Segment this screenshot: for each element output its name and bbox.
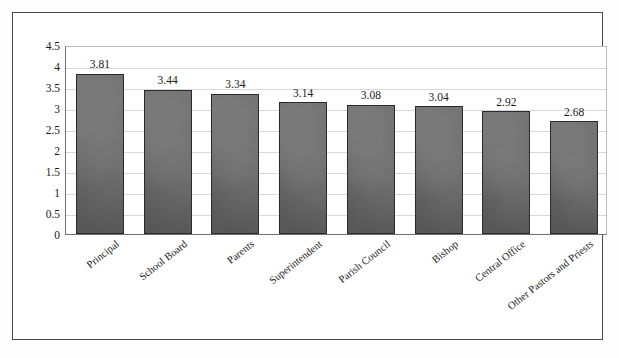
x-axis-category-label: School Board [137, 239, 189, 283]
y-axis-tick-label: 4.5 [46, 41, 60, 53]
bar[interactable]: 3.81 [76, 74, 124, 234]
bar[interactable]: 3.08 [347, 105, 395, 234]
bar[interactable]: 3.14 [279, 102, 327, 234]
y-axis-tick-label: 3 [54, 104, 60, 116]
y-axis-tick-label: 1.5 [46, 167, 60, 179]
bar[interactable]: 3.44 [144, 90, 192, 234]
bar[interactable]: 2.92 [482, 111, 530, 234]
y-axis-tick-label: 2.5 [46, 125, 60, 137]
chart-screenshot: 00.511.522.533.544.5 3.813.443.343.143.0… [0, 0, 619, 358]
y-axis-tick-label: 3.5 [46, 83, 60, 95]
y-axis-tick-label: 1 [54, 188, 60, 200]
bar[interactable]: 2.68 [550, 121, 598, 234]
x-axis-category-label: Principal [85, 239, 121, 271]
bar-value-label: 3.81 [90, 59, 110, 71]
bar[interactable]: 3.04 [415, 106, 463, 234]
x-axis-category-label: Central Office [474, 239, 528, 284]
bar-value-label: 3.44 [158, 75, 178, 87]
y-axis-tick-label: 0 [54, 230, 60, 242]
bar-value-label: 3.08 [361, 90, 381, 102]
x-axis-category-label: Bishop [430, 239, 460, 266]
x-axis-category-label: Superintendent [268, 239, 325, 286]
y-axis-tick-label: 2 [54, 146, 60, 158]
bar-value-label: 2.68 [564, 107, 584, 119]
bar-value-label: 3.14 [293, 88, 313, 100]
x-axis-category-label: Parents [226, 239, 257, 266]
bar-value-label: 2.92 [496, 97, 516, 109]
bar[interactable]: 3.34 [211, 94, 259, 234]
x-axis-category-label: Parish Council [337, 239, 392, 286]
y-axis-tick-label: 4 [54, 62, 60, 74]
bar-value-label: 3.34 [225, 79, 245, 91]
plot-area: 00.511.522.533.544.5 3.813.443.343.143.0… [65, 46, 607, 235]
gridline [66, 68, 606, 69]
chart-outer-frame: 00.511.522.533.544.5 3.813.443.343.143.0… [12, 12, 603, 340]
bar-value-label: 3.04 [429, 92, 449, 104]
y-axis-tick-label: 0.5 [46, 209, 60, 221]
